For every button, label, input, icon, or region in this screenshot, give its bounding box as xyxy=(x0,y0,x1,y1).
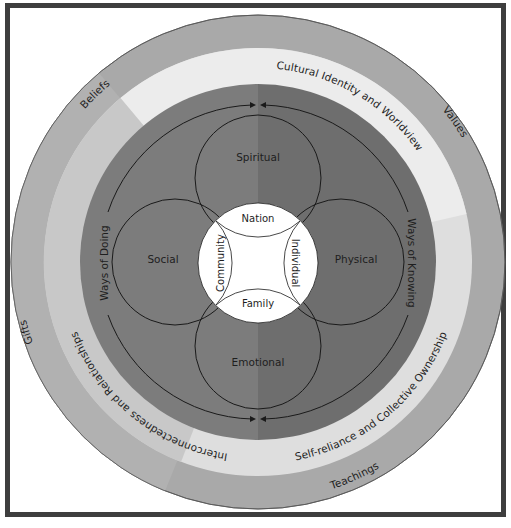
label-emotional: Emotional xyxy=(232,356,285,368)
label-ways-of-knowing: Ways of Knowing xyxy=(406,218,418,307)
label-nation: Nation xyxy=(242,213,275,224)
label-individual: Individual xyxy=(290,239,301,288)
holistic-wellness-diagram: Beliefs Values Teachings Gifts Cultural … xyxy=(0,0,511,528)
label-ways-of-doing: Ways of Doing xyxy=(98,225,110,300)
label-social: Social xyxy=(147,253,178,265)
label-physical: Physical xyxy=(335,253,378,265)
label-community: Community xyxy=(215,234,226,292)
label-family: Family xyxy=(242,298,274,309)
label-spiritual: Spiritual xyxy=(236,151,280,163)
